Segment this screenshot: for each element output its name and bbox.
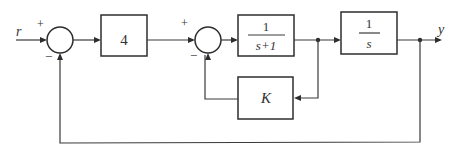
output-label-y: y: [436, 22, 445, 37]
sum2-plus-sign: +: [181, 16, 188, 30]
block-diagram: r + − 4 + − 1 s+1 1 s y K: [0, 0, 453, 156]
sum1-minus-sign: −: [45, 49, 52, 64]
summing-junction-2: [195, 27, 221, 53]
integrator-denominator: s: [366, 36, 371, 51]
arrowhead-icon: [435, 37, 442, 43]
integrator-numerator: 1: [366, 16, 373, 31]
feedback-block-label: K: [260, 90, 272, 106]
plant-denominator: s+1: [256, 38, 276, 53]
arrowhead-icon: [231, 37, 238, 43]
input-label-r: r: [16, 24, 22, 39]
arrowhead-icon: [57, 53, 63, 60]
sum2-minus-sign: −: [190, 48, 197, 63]
inner-feedback-line-out: [205, 55, 238, 99]
arrowhead-icon: [188, 37, 195, 43]
arrowhead-icon: [294, 95, 301, 101]
inner-feedback-line-in: [296, 40, 318, 98]
arrowhead-icon: [334, 37, 341, 43]
arrowhead-icon: [94, 37, 101, 43]
sum1-plus-sign: +: [37, 17, 44, 31]
arrowhead-icon: [40, 37, 47, 43]
plant-numerator: 1: [263, 19, 270, 34]
gain-block-label: 4: [120, 32, 128, 48]
arrowhead-icon: [205, 53, 211, 60]
